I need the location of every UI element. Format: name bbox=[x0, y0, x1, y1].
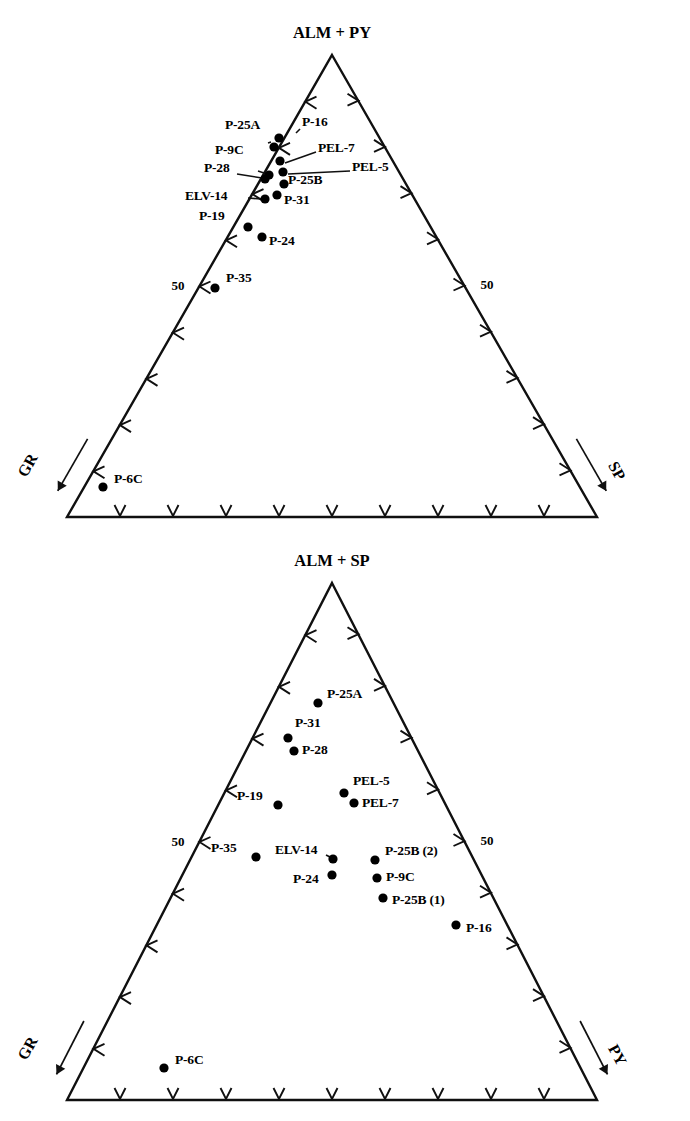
tick-base-7 bbox=[221, 505, 232, 516]
point-label: P-24 bbox=[269, 234, 294, 248]
tick-base-2 bbox=[486, 1088, 497, 1099]
point-label: P-31 bbox=[284, 193, 309, 207]
point-label: P-19 bbox=[237, 789, 262, 803]
point-label: P-6C bbox=[175, 1053, 203, 1067]
point-label: P-16 bbox=[302, 115, 327, 129]
tick-base-7 bbox=[221, 1088, 232, 1099]
point-label: PEL-7 bbox=[362, 796, 399, 810]
triangle-outline bbox=[67, 55, 597, 517]
point-label: P-28 bbox=[204, 161, 229, 175]
point-label: P-19 bbox=[199, 209, 224, 223]
data-point[interactable] bbox=[269, 142, 278, 151]
tick-right-9 bbox=[560, 463, 571, 475]
tick-base-6 bbox=[274, 1088, 285, 1099]
data-point[interactable] bbox=[339, 788, 348, 797]
data-point[interactable] bbox=[98, 482, 107, 491]
data-point[interactable] bbox=[278, 167, 287, 176]
data-point[interactable] bbox=[370, 855, 379, 864]
data-point[interactable] bbox=[313, 698, 322, 707]
tick-base-8 bbox=[168, 1088, 179, 1099]
tick-base-6 bbox=[274, 505, 285, 516]
tick-base-4 bbox=[380, 1088, 391, 1099]
data-point[interactable] bbox=[349, 798, 358, 807]
tick-base-3 bbox=[433, 1088, 444, 1099]
leader-line bbox=[268, 142, 271, 143]
data-point[interactable] bbox=[260, 174, 269, 183]
data-point[interactable] bbox=[327, 870, 336, 879]
data-point[interactable] bbox=[274, 133, 283, 142]
tick-base-4 bbox=[380, 505, 391, 516]
point-label: P-31 bbox=[295, 716, 320, 730]
point-label: PEL-7 bbox=[318, 141, 355, 155]
tick-base-5 bbox=[327, 505, 338, 516]
tick-right-7 bbox=[507, 371, 518, 383]
leader-line bbox=[296, 129, 300, 133]
tick-right-2 bbox=[374, 140, 385, 152]
apex-label: ALM + PY bbox=[0, 25, 677, 42]
tick-right-4 bbox=[427, 232, 438, 244]
tick-base-1 bbox=[539, 505, 550, 516]
tick-base-2 bbox=[486, 505, 497, 516]
tick-base-9 bbox=[115, 505, 126, 516]
figure-sheet: ALM + PY5050GRSPP-16P-25APEL-7PEL-5P-9CP… bbox=[0, 0, 690, 1121]
tick-right-3 bbox=[401, 186, 412, 198]
point-label: P-35 bbox=[226, 271, 251, 285]
triangle-outline bbox=[67, 583, 597, 1100]
scale-label-right: 50 bbox=[481, 278, 494, 291]
point-label: ELV-14 bbox=[275, 843, 317, 857]
scale-label-right: 50 bbox=[481, 834, 494, 847]
leader-line bbox=[258, 171, 264, 173]
point-label: P-25B bbox=[288, 173, 322, 187]
point-label: P-25A bbox=[327, 687, 362, 701]
data-point[interactable] bbox=[378, 893, 387, 902]
leader-line bbox=[237, 174, 262, 178]
point-label: P-25A bbox=[225, 118, 260, 132]
data-point[interactable] bbox=[243, 222, 252, 231]
tick-base-3 bbox=[433, 505, 444, 516]
tick-base-1 bbox=[539, 1088, 550, 1099]
data-point[interactable] bbox=[257, 232, 266, 241]
scale-label-left: 50 bbox=[172, 279, 185, 292]
point-label: PEL-5 bbox=[353, 774, 390, 788]
data-point[interactable] bbox=[451, 920, 460, 929]
point-label: P-25B (1) bbox=[392, 893, 445, 907]
data-point[interactable] bbox=[260, 194, 269, 203]
point-label: P-25B (2) bbox=[385, 844, 438, 858]
data-point[interactable] bbox=[273, 800, 282, 809]
tick-base-5 bbox=[327, 1088, 338, 1099]
tick-base-8 bbox=[168, 505, 179, 516]
point-label: P-16 bbox=[466, 921, 491, 935]
leader-line bbox=[248, 198, 261, 199]
ternary-plot-ternary-bottom bbox=[56, 583, 608, 1100]
tick-right-6 bbox=[480, 325, 491, 337]
point-label: P-24 bbox=[293, 872, 318, 886]
data-point[interactable] bbox=[328, 854, 337, 863]
data-point[interactable] bbox=[159, 1063, 168, 1072]
scale-label-left: 50 bbox=[172, 835, 185, 848]
apex-label: ALM + SP bbox=[0, 553, 677, 570]
point-label: P-9C bbox=[215, 143, 243, 157]
data-point[interactable] bbox=[251, 852, 260, 861]
point-label: P-9C bbox=[386, 870, 414, 884]
data-point[interactable] bbox=[372, 873, 381, 882]
tick-right-8 bbox=[533, 417, 544, 429]
data-point[interactable] bbox=[275, 156, 284, 165]
point-label: PEL-5 bbox=[352, 160, 389, 174]
point-label: P-35 bbox=[211, 841, 236, 855]
point-label: P-6C bbox=[114, 472, 142, 486]
point-label: P-28 bbox=[302, 743, 327, 757]
data-point[interactable] bbox=[283, 733, 292, 742]
data-point[interactable] bbox=[210, 283, 219, 292]
right-axis-arrow-shaft bbox=[580, 1021, 607, 1074]
data-point[interactable] bbox=[272, 190, 281, 199]
point-label: ELV-14 bbox=[185, 189, 227, 203]
ternary-plot-ternary-top bbox=[58, 55, 607, 517]
tick-right-5 bbox=[454, 279, 465, 291]
tick-base-9 bbox=[115, 1088, 126, 1099]
tick-right-1 bbox=[348, 94, 359, 106]
data-point[interactable] bbox=[289, 746, 298, 755]
